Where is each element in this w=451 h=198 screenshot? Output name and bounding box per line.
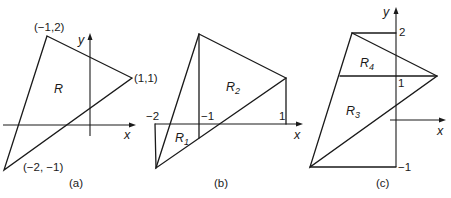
tick-label-2: 2 — [399, 26, 405, 38]
panel-a: (−1,2) (1,1) (−2, −1) y x R (a) — [3, 21, 158, 189]
y-axis-label: y — [382, 5, 390, 19]
y-axis-arrow-icon — [88, 33, 93, 40]
tick-label-minus1: −1 — [201, 110, 214, 122]
vertex-label-right: (1,1) — [134, 72, 158, 84]
panel-c: y 2 1 −1 x R4 R3 (c) — [310, 5, 446, 189]
x-axis-label: x — [293, 128, 301, 142]
x-axis-label: x — [436, 124, 444, 138]
triangle-region-r — [4, 36, 132, 170]
triangle-region-figure: (−1,2) (1,1) (−2, −1) y x R (a) −2 −1 1 … — [0, 0, 451, 198]
x-axis-arrow-icon — [129, 123, 136, 128]
y-axis-label: y — [77, 33, 85, 47]
tick-label-1: 1 — [279, 110, 285, 122]
panel-caption-a: (a) — [69, 177, 83, 189]
region-label-r4: R4 — [360, 56, 374, 72]
triangle-region — [310, 33, 437, 167]
vertex-label-bottom: (−2, −1) — [23, 161, 63, 173]
vertex-label-top: (−1,2) — [34, 21, 65, 33]
x-axis-label: x — [123, 128, 131, 142]
x-axis-arrow-icon — [296, 122, 303, 127]
panel-caption-c: (c) — [376, 177, 390, 189]
region-label-r3: R3 — [346, 104, 360, 120]
tick-label-minus1: −1 — [398, 161, 411, 173]
tick-label-1: 1 — [398, 77, 404, 89]
x-axis-arrow-icon — [439, 118, 446, 123]
region-label-r1: R1 — [175, 131, 189, 147]
panel-b: −2 −1 1 x R1 R2 (b) — [146, 34, 303, 189]
tick-label-minus2: −2 — [146, 110, 159, 122]
vertical-line-x-minus2 — [155, 124, 156, 168]
region-label-r2: R2 — [226, 80, 240, 96]
region-label-r: R — [54, 82, 63, 96]
y-axis-arrow-icon — [394, 7, 399, 14]
panel-caption-b: (b) — [214, 177, 228, 189]
triangle-region — [156, 34, 286, 168]
